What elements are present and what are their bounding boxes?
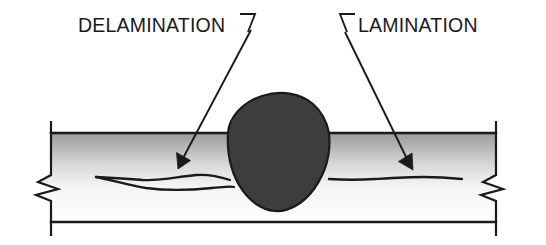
diagram-canvas: DELAMINATION LAMINATION bbox=[0, 0, 546, 245]
delamination-label: DELAMINATION bbox=[78, 14, 225, 36]
delamination-leader-hook bbox=[240, 14, 255, 32]
lamination-label: LAMINATION bbox=[358, 14, 478, 36]
lamination-leader-hook bbox=[340, 14, 355, 32]
cross-section-diagram: DELAMINATION LAMINATION bbox=[0, 0, 546, 245]
